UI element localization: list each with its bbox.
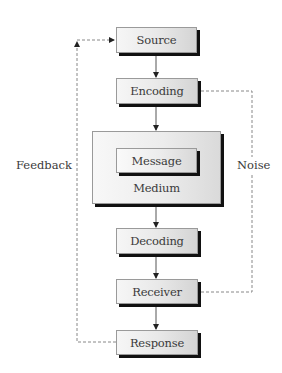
feedback-arrowhead-up	[74, 41, 80, 47]
receiver-box: Receiver	[116, 279, 198, 304]
source-label: Source	[137, 33, 177, 47]
encoding-box: Encoding	[116, 78, 198, 104]
feedback-label: Feedback	[16, 157, 72, 173]
message-box: Message	[116, 148, 197, 173]
message-label: Message	[131, 154, 181, 168]
response-label: Response	[130, 336, 184, 350]
receiver-label: Receiver	[132, 285, 182, 299]
response-box: Response	[116, 330, 198, 355]
source-box: Source	[116, 27, 197, 53]
decoding-box: Decoding	[116, 228, 198, 254]
noise-label: Noise	[237, 157, 270, 173]
medium-label: Medium	[133, 181, 180, 195]
encoding-label: Encoding	[130, 84, 183, 98]
decoding-label: Decoding	[130, 234, 184, 248]
